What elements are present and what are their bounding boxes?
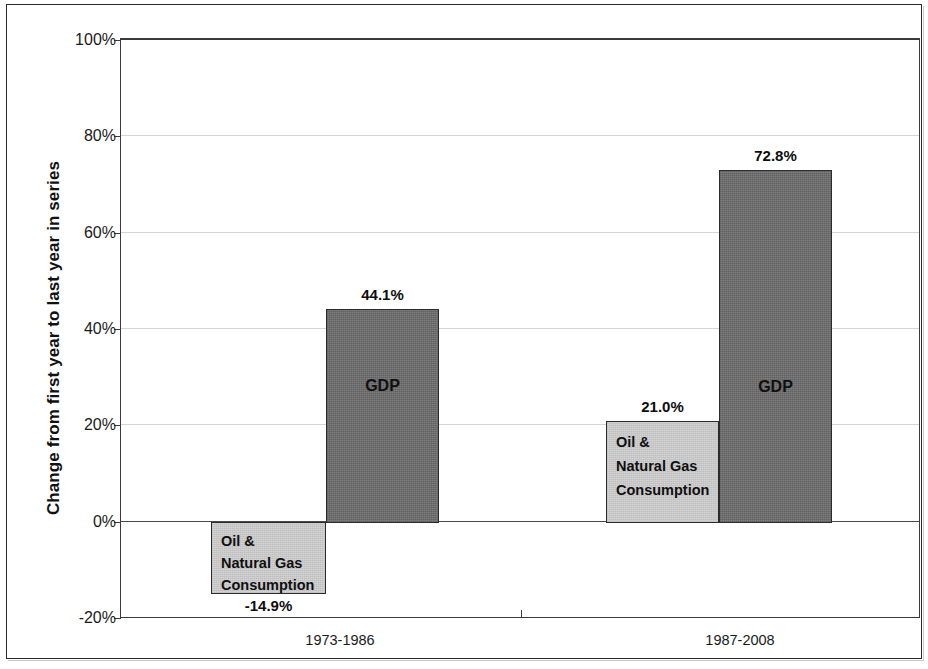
ytick-label-0: 0% — [93, 513, 116, 531]
bar-1987-2008-oil-natural-gas[interactable]: Oil & Natural Gas Consumption — [606, 421, 719, 523]
ytick-label-40: 40% — [84, 320, 116, 338]
ytick-label-20: 20% — [84, 416, 116, 434]
ytick-label-80: 80% — [84, 127, 116, 145]
chart-page: Change from first year to last year in s… — [0, 0, 928, 669]
bar-1973-1986-oil-natural-gas[interactable]: Oil & Natural Gas Consumption — [211, 522, 326, 594]
category-label-1987-2008: 1987-2008 — [660, 632, 820, 648]
value-label-1987-2008-oil: 21.0% — [606, 398, 719, 415]
bar-label-oil-line1: Oil & — [221, 530, 255, 552]
bar-1973-1986-gdp[interactable]: GDP — [326, 309, 439, 523]
gridline-minus20: -20% — [121, 617, 919, 618]
bar-1987-2008-gdp[interactable]: GDP — [719, 170, 832, 523]
bar-label-oil-line3: Consumption — [221, 574, 314, 596]
plot-area: 100% 80% 60% 40% 20% 0% -20% — [120, 38, 920, 618]
xtick-category-divider — [521, 610, 522, 617]
bar-label-oil-line2-g2: Natural Gas — [616, 455, 697, 477]
bar-label-oil-line3-g2: Consumption — [616, 479, 709, 501]
ytick-label-60: 60% — [84, 224, 116, 242]
gridline-80: 80% — [121, 135, 919, 136]
value-label-1973-1986-oil: -14.9% — [211, 597, 326, 614]
gridline-100: 100% — [121, 39, 919, 40]
ytick-label-100: 100% — [75, 31, 116, 49]
bar-label-gdp-g2: GDP — [720, 378, 831, 396]
bar-label-oil-line1-g2: Oil & — [616, 431, 650, 453]
y-axis-title: Change from first year to last year in s… — [44, 38, 64, 638]
bar-label-oil-line2: Natural Gas — [221, 552, 302, 574]
category-label-1973-1986: 1973-1986 — [260, 632, 420, 648]
bar-label-gdp: GDP — [327, 377, 438, 395]
ytick-label-minus20: -20% — [79, 609, 116, 627]
value-label-1973-1986-gdp: 44.1% — [326, 286, 439, 303]
value-label-1987-2008-gdp: 72.8% — [719, 147, 832, 164]
